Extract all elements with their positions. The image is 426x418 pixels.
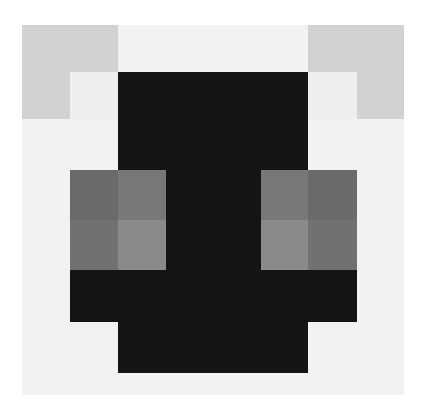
eye-left-tr-pixel — [118, 170, 166, 220]
ear-left-top-pixel — [22, 25, 118, 72]
ear-right-top-pixel — [308, 25, 404, 72]
ear-left-inner-pixel — [70, 72, 118, 119]
ear-right-inner-pixel — [308, 72, 357, 119]
eye-right-tr-pixel — [308, 170, 357, 220]
pixel-art-canvas — [0, 0, 426, 418]
eye-left-br-pixel — [118, 220, 166, 270]
eye-right-bl-pixel — [261, 220, 308, 270]
eye-left-bl-pixel — [70, 220, 118, 270]
eye-right-tl-pixel — [261, 170, 308, 220]
ear-left-side-pixel — [22, 72, 70, 119]
eye-right-br-pixel — [308, 220, 357, 270]
jaw-pixel — [70, 270, 357, 322]
face-center-pixel — [166, 170, 261, 270]
eye-left-tl-pixel — [70, 170, 118, 220]
head-top-pixel — [118, 72, 308, 170]
chin-pixel — [118, 322, 308, 373]
ear-right-side-pixel — [357, 72, 404, 119]
